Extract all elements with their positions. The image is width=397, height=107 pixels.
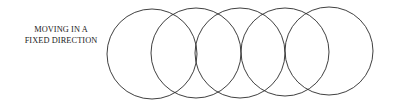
circle-3 [195, 8, 285, 98]
circle-1 [107, 9, 197, 99]
overlapping-circles-diagram [0, 0, 397, 107]
circle-2 [151, 8, 241, 98]
